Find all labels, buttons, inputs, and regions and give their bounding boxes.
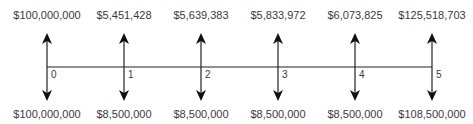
period-4: $6,073,825$8,500,0004 bbox=[327, 9, 382, 120]
outflow-label: $8,500,000 bbox=[327, 108, 382, 120]
period-label: 3 bbox=[282, 69, 288, 80]
inflow-label: $5,639,383 bbox=[173, 9, 228, 21]
period-3: $5,833,972$8,500,0003 bbox=[250, 9, 305, 120]
period-label: 4 bbox=[359, 69, 365, 80]
cash-flow-timeline: $100,000,000$100,000,0000$5,451,428$8,50… bbox=[0, 0, 473, 124]
inflow-label: $125,518,703 bbox=[398, 9, 465, 21]
inflow-label: $5,833,972 bbox=[250, 9, 305, 21]
period-2: $5,639,383$8,500,0002 bbox=[173, 9, 228, 120]
inflow-label: $100,000,000 bbox=[13, 9, 80, 21]
outflow-label: $8,500,000 bbox=[250, 108, 305, 120]
period-0: $100,000,000$100,000,0000 bbox=[13, 9, 80, 120]
outflow-label: $8,500,000 bbox=[96, 108, 151, 120]
period-1: $5,451,428$8,500,0001 bbox=[96, 9, 151, 120]
period-label: 1 bbox=[128, 69, 134, 80]
period-label: 2 bbox=[205, 69, 211, 80]
inflow-label: $5,451,428 bbox=[96, 9, 151, 21]
period-label: 5 bbox=[436, 69, 442, 80]
outflow-label: $8,500,000 bbox=[173, 108, 228, 120]
outflow-label: $108,500,000 bbox=[398, 108, 465, 120]
period-label: 0 bbox=[51, 69, 57, 80]
inflow-label: $6,073,825 bbox=[327, 9, 382, 21]
period-5: $125,518,703$108,500,0005 bbox=[398, 9, 465, 120]
outflow-label: $100,000,000 bbox=[13, 108, 80, 120]
